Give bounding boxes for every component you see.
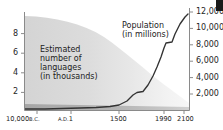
x-axis-tick-1990: 1990 (155, 116, 172, 123)
population-annotation-line-2: (in millions) (122, 31, 169, 40)
x-axis-tick-10000-bc-era: B.C. (29, 116, 39, 122)
languages-annotation: Estimated number of languages (in thousa… (40, 46, 98, 82)
population-annotation: Population (in millions) (122, 22, 169, 40)
corner-artifact (216, 0, 223, 11)
x-axis-tick-10000-bc-value: 10,000 (6, 115, 29, 123)
language-population-chart: 8 6 4 2 12,000 10,000 8,000 6,000 4,000 … (0, 0, 223, 130)
x-axis-tick-2100: 2100 (177, 116, 194, 123)
chart-plot-area (0, 0, 223, 130)
x-axis-tick-ad-1: A.D.1 (58, 116, 73, 123)
languages-annotation-line-4: (in thousands) (40, 73, 98, 82)
left-axis-tick-8: 8 (8, 30, 18, 38)
right-axis-tick-8000: 8,000 (196, 41, 219, 49)
right-axis-tick-10000: 10,000 (196, 24, 223, 32)
x-axis-tick-ad-era: A.D. (58, 116, 69, 122)
right-axis-tick-2000: 2,000 (196, 90, 219, 98)
x-axis-ticks (37, 111, 184, 115)
x-axis-tick-ad-value: 1 (69, 115, 73, 123)
left-axis-tick-4: 4 (8, 69, 18, 77)
left-axis-tick-2: 2 (8, 88, 18, 96)
x-axis-tick-10000-bc: 10,000B.C. (6, 116, 40, 123)
right-axis-tick-4000: 4,000 (196, 74, 219, 82)
right-axis-tick-6000: 6,000 (196, 57, 219, 65)
x-axis-tick-1500: 1500 (110, 116, 127, 123)
left-axis-tick-6: 6 (8, 49, 18, 57)
